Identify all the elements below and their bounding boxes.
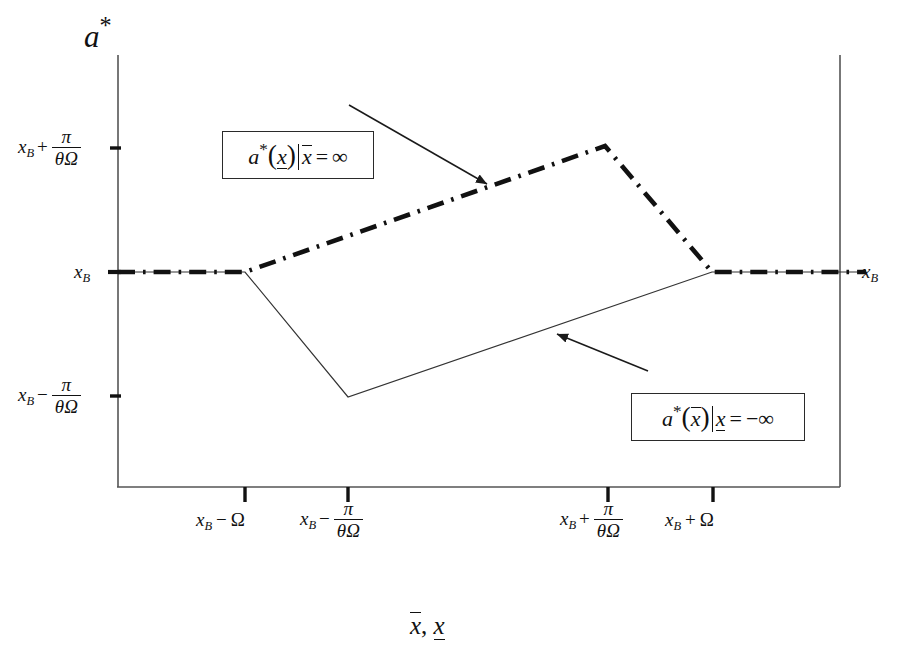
x-tick-2-fraction: πθΩ (334, 499, 363, 540)
annotation-box-lower: a*(x)x=−∞ (631, 393, 805, 441)
x-axis-title-separator: , (421, 612, 434, 639)
curve-a-star-xbar (118, 272, 866, 397)
x-tick-2-denominator: θΩ (334, 520, 363, 540)
right-baseline-sub: B (870, 271, 878, 285)
annotation-upper-star: * (259, 140, 268, 159)
y-axis-title-base: a (84, 19, 100, 54)
x-tick-3-numerator: π (594, 499, 623, 520)
y-tick-lower-sub: B (26, 394, 34, 408)
y-tick-upper-numerator: π (52, 127, 81, 148)
x-tick-1-tail: Ω (231, 509, 245, 530)
annotation-upper-equals: = (316, 144, 328, 169)
x-tick-1-operator: − (216, 509, 227, 530)
x-tick-4-sub: B (673, 519, 681, 533)
x-tick-4-operator: + (685, 509, 696, 530)
annotation-lower-text: a*(x)x=−∞ (662, 401, 774, 433)
y-tick-label-lower: xB−πθΩ (18, 376, 82, 417)
x-tick-4-tail: Ω (700, 509, 714, 530)
y-tick-mid-sub: B (82, 271, 90, 285)
y-tick-lower-denominator: θΩ (52, 396, 81, 416)
y-tick-label-upper: xB+πθΩ (18, 128, 82, 169)
x-tick-3-sub: B (568, 518, 576, 532)
x-axis-title: x, x (410, 612, 445, 640)
right-baseline-label: xB (862, 262, 878, 285)
annotation-upper-text: a*(x)x=∞ (248, 139, 348, 171)
figure-canvas: a* xB+πθΩ xB xB−πθΩ xB−Ω xB−πθΩ xB+πθΩ x… (0, 0, 901, 667)
x-axis-title-second: x (434, 613, 445, 640)
y-tick-upper-sub: B (26, 146, 34, 160)
x-tick-3-operator: + (579, 508, 590, 529)
annotation-lower-paren-close: ) (701, 401, 710, 432)
y-tick-lower-operator: − (37, 384, 48, 405)
annotation-upper-function: a (248, 144, 259, 169)
x-tick-2-operator: − (319, 508, 330, 529)
y-tick-lower-fraction: πθΩ (52, 375, 81, 416)
x-tick-2-numerator: π (334, 499, 363, 520)
annotation-lower-function: a (662, 406, 673, 431)
annotation-upper-argument: x (277, 146, 287, 169)
annotation-lower-argument: x (691, 407, 701, 430)
x-tick-label-4: xB+Ω (665, 510, 714, 533)
x-tick-2-sub: B (308, 518, 316, 532)
annotation-lower-condition-var: x (716, 408, 726, 431)
annotation-lower-star: * (673, 402, 682, 421)
y-tick-label-mid: xB (74, 262, 90, 285)
annotation-lower-paren-open: ( (682, 401, 691, 432)
annotation-upper-value: ∞ (332, 144, 348, 169)
annotation-upper-condition-var: x (302, 145, 312, 168)
y-tick-upper-denominator: θΩ (52, 148, 81, 168)
annotation-lower-equals: = (729, 406, 741, 431)
y-axis-title: a* (84, 14, 112, 52)
y-tick-lower-numerator: π (52, 375, 81, 396)
x-tick-3-fraction: πθΩ (594, 499, 623, 540)
annotation-lower-value: −∞ (746, 406, 774, 431)
annotation-upper-paren-close: ) (287, 139, 296, 170)
x-tick-label-2: xB−πθΩ (300, 500, 364, 541)
annotation-lower-evaluation-bar (712, 406, 713, 431)
x-tick-label-3: xB+πθΩ (560, 500, 624, 541)
annotation-lower-arrow (557, 334, 648, 371)
annotation-upper-evaluation-bar (298, 144, 299, 169)
x-tick-1-sub: B (204, 519, 212, 533)
x-tick-label-1: xB−Ω (196, 510, 245, 533)
annotation-upper-paren-open: ( (268, 139, 277, 170)
y-axis-title-superscript: * (100, 12, 112, 39)
annotation-box-upper: a*(x)x=∞ (222, 131, 374, 179)
plot-svg (0, 0, 901, 667)
y-tick-upper-operator: + (37, 136, 48, 157)
x-tick-3-denominator: θΩ (594, 520, 623, 540)
y-tick-upper-fraction: πθΩ (52, 127, 81, 168)
x-axis-title-first: x (410, 612, 421, 639)
